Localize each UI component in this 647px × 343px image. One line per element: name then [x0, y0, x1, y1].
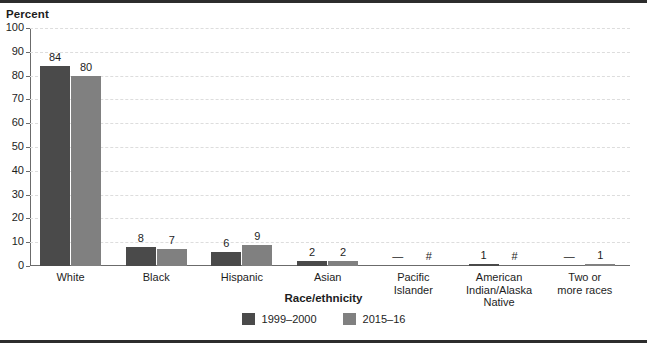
- y-tick-mark: [26, 171, 30, 172]
- y-tick-label: 90: [0, 45, 24, 58]
- bar-group: 87Black: [120, 28, 206, 266]
- bar: [126, 247, 156, 266]
- bar-group: 1#AmericanIndian/AlaskaNative: [463, 28, 549, 266]
- bar-value-label: 1: [583, 249, 617, 261]
- bar: [383, 265, 413, 267]
- y-tick-mark: [26, 52, 30, 53]
- bar: [328, 261, 358, 266]
- bar: [211, 252, 241, 266]
- bar-value-label: 2: [326, 246, 360, 258]
- y-tick-mark: [26, 266, 30, 267]
- bar-value-label: 1: [467, 249, 501, 261]
- bar-value-label: —: [381, 250, 415, 262]
- y-axis-title: Percent: [6, 8, 49, 20]
- bar-value-label: 7: [155, 234, 189, 246]
- y-tick-mark: [26, 123, 30, 124]
- legend-swatch: [343, 313, 356, 325]
- y-tick-label: 70: [0, 92, 24, 105]
- bar: [554, 265, 584, 267]
- bar: [157, 249, 187, 266]
- y-tick-label: 100: [0, 21, 24, 34]
- legend-item[interactable]: 2015–16: [343, 313, 406, 325]
- bar-value-label: 84: [38, 51, 72, 63]
- plot-area: 0102030405060708090100 8480White87Black6…: [30, 28, 630, 266]
- y-tick-label: 10: [0, 235, 24, 248]
- bar: [414, 265, 444, 267]
- legend-label: 1999–2000: [262, 313, 317, 325]
- bar-group: —1Two ormore races: [548, 28, 634, 266]
- chart-legend: 1999–20002015–16: [0, 313, 647, 325]
- bar-value-label: #: [412, 250, 446, 262]
- y-tick-mark: [26, 147, 30, 148]
- bar-value-label: 9: [240, 230, 274, 242]
- y-tick-mark: [26, 195, 30, 196]
- y-tick-label: 60: [0, 116, 24, 129]
- x-tick-label-line: Two or: [532, 271, 637, 284]
- bar: [585, 264, 615, 266]
- y-tick-label: 20: [0, 211, 24, 224]
- bar: [242, 245, 272, 266]
- bar-value-label: 6: [209, 237, 243, 249]
- y-tick-mark: [26, 28, 30, 29]
- bar-value-label: 80: [69, 61, 103, 73]
- y-tick-mark: [26, 218, 30, 219]
- figure-top-border: [0, 0, 647, 3]
- y-tick-mark: [26, 242, 30, 243]
- y-tick-mark: [26, 76, 30, 77]
- bar: [71, 76, 101, 266]
- legend-label: 2015–16: [363, 313, 406, 325]
- x-axis-title: Race/ethnicity: [0, 292, 647, 304]
- bar-value-label: #: [498, 250, 532, 262]
- bar: [40, 66, 70, 266]
- y-tick-label: 50: [0, 140, 24, 153]
- bar-group: 8480White: [34, 28, 120, 266]
- y-tick-label: 80: [0, 69, 24, 82]
- y-tick-mark: [26, 99, 30, 100]
- bar-value-label: 8: [124, 232, 158, 244]
- legend-item[interactable]: 1999–2000: [242, 313, 317, 325]
- bar-group: 22Asian: [291, 28, 377, 266]
- bar: [297, 261, 327, 266]
- bar-group: —#PacificIslander: [377, 28, 463, 266]
- legend-swatch: [242, 313, 255, 325]
- bar: [500, 265, 530, 267]
- bar: [469, 264, 499, 266]
- bar-group: 69Hispanic: [205, 28, 291, 266]
- y-tick-label: 40: [0, 164, 24, 177]
- bar-value-label: 2: [295, 246, 329, 258]
- y-tick-label: 30: [0, 188, 24, 201]
- bar-value-label: —: [552, 250, 586, 262]
- chart-figure: Percent 0102030405060708090100 8480White…: [0, 0, 647, 343]
